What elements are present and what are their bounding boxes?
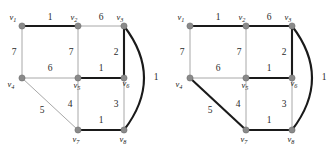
edge-weight-v3-v8: 1 [322, 72, 327, 82]
edge-weight-v1-v4: 7 [12, 47, 17, 57]
edge-weight-v2-v3: 6 [267, 12, 272, 22]
vertex-node-v1 [187, 23, 193, 29]
edge-weight-v5-v7: 4 [68, 99, 73, 109]
vertex-label-v4: v4 [8, 79, 15, 90]
graph-panel-left: 167726154311v1v2v3v4v5v6v7v8 [0, 0, 168, 153]
vertex-label-v2: v2 [71, 12, 78, 23]
edge-weight-v5-v6: 1 [99, 63, 104, 73]
vertex-node-v2 [75, 23, 81, 29]
vertex-label-v1: v1 [178, 12, 185, 23]
edge-weight-v7-v8: 1 [267, 115, 272, 125]
edge-weight-v1-v2: 1 [48, 12, 53, 22]
edge-weight-v5-v6: 1 [267, 63, 272, 73]
vertex-node-v3 [289, 23, 295, 29]
graph-panel-right: 167726154311v1v2v3v4v5v6v7v8 [168, 0, 336, 153]
vertex-label-v5: v5 [242, 80, 249, 91]
vertex-label-v4: v4 [176, 79, 183, 90]
vertex-label-v7: v7 [73, 134, 81, 145]
vertex-node-v8 [289, 127, 295, 133]
edge-weight-v5-v7: 4 [236, 99, 241, 109]
vertex-label-v7: v7 [241, 134, 249, 145]
edge-weight-v6-v8: 3 [114, 99, 119, 109]
edge-weight-v4-v7: 5 [40, 105, 45, 115]
edge-weight-v2-v5: 7 [237, 47, 242, 57]
edge-weight-v4-v7: 5 [208, 105, 213, 115]
vertex-label-v5: v5 [74, 80, 81, 91]
edge-weight-v3-v8: 1 [154, 72, 159, 82]
edge-weight-v7-v8: 1 [99, 115, 104, 125]
vertex-node-v2 [243, 23, 249, 29]
graph-figure: 167726154311v1v2v3v4v5v6v7v8 16772615431… [0, 0, 336, 153]
edge-weight-v3-v6: 2 [114, 47, 119, 57]
edge-weight-v1-v4: 7 [180, 47, 185, 57]
vertex-node-v1 [19, 23, 25, 29]
vertex-label-v8: v8 [288, 134, 296, 145]
edge-weight-v2-v3: 6 [99, 12, 104, 22]
graph-canvas-left: 167726154311v1v2v3v4v5v6v7v8 [0, 0, 168, 153]
vertex-node-v3 [121, 23, 127, 29]
vertex-label-v3: v3 [117, 12, 124, 23]
vertex-label-v8: v8 [120, 134, 128, 145]
vertex-node-v4 [19, 75, 25, 81]
vertex-node-v8 [121, 127, 127, 133]
vertex-label-v2: v2 [239, 12, 246, 23]
vertex-label-v1: v1 [10, 12, 17, 23]
vertex-label-v3: v3 [285, 12, 292, 23]
edge-weight-v1-v2: 1 [216, 12, 221, 22]
vertex-node-v4 [187, 75, 193, 81]
graph-canvas-right: 167726154311v1v2v3v4v5v6v7v8 [168, 0, 336, 153]
edge-weight-v4-v5: 6 [216, 63, 221, 73]
edge-weight-v4-v5: 6 [48, 63, 53, 73]
edge-weight-v2-v5: 7 [69, 47, 74, 57]
vertex-node-v7 [243, 127, 249, 133]
edge-weight-v6-v8: 3 [282, 99, 287, 109]
edge-weight-v3-v6: 2 [282, 47, 287, 57]
vertex-node-v7 [75, 127, 81, 133]
